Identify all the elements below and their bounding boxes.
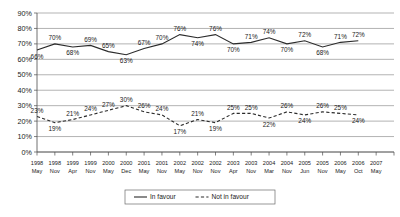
x-axis-year-label: 2006 (352, 160, 364, 166)
x-axis-year-label: 2002 (209, 160, 221, 166)
x-axis-month-label: Nov (86, 168, 96, 174)
x-axis-month-label: Dec (121, 168, 131, 174)
data-point-label: 21% (66, 110, 79, 117)
x-axis-month-label: May (175, 168, 186, 174)
chart-container: 0%10%20%30%40%50%60%70%80%90% 1998May199… (0, 0, 400, 217)
y-axis-label: 40% (18, 86, 33, 95)
x-axis-year-label: 2004 (281, 160, 293, 166)
data-point-label: 71% (334, 33, 347, 40)
x-axis-month-label: Apr (229, 168, 238, 174)
data-point-label: 74% (263, 28, 276, 35)
data-point-label: 66% (31, 53, 44, 60)
data-point-label: 19% (209, 125, 222, 132)
x-axis-month-label: Nov (193, 168, 203, 174)
data-point-label: 17% (173, 128, 186, 135)
x-axis-month-label: May (139, 168, 150, 174)
data-point-label: 69% (84, 36, 97, 43)
y-axis-label: 90% (18, 9, 33, 18)
x-axis-month-label: May (32, 168, 43, 174)
x-axis-tick-marks (37, 152, 394, 156)
x-axis-month-label: Mar (264, 168, 274, 174)
y-axis-label: 50% (18, 70, 33, 79)
y-axis-label: 0% (22, 148, 33, 157)
x-axis-month-label: Jun (300, 168, 309, 174)
y-axis-label: 10% (18, 132, 33, 141)
data-point-label: 26% (138, 102, 151, 109)
x-axis-year-label: 2007 (370, 160, 382, 166)
x-axis-year-label: 2000 (120, 160, 132, 166)
data-point-label: 70% (281, 46, 294, 53)
data-point-label: 25% (334, 104, 347, 111)
x-axis-month-label: May (335, 168, 346, 174)
data-point-label: 26% (316, 102, 329, 109)
data-point-label: 72% (352, 31, 365, 38)
data-point-label: 24% (298, 117, 311, 124)
x-axis-year-label: 2001 (138, 160, 150, 166)
x-axis-year-label: 2002 (174, 160, 186, 166)
data-point-label: 67% (138, 39, 151, 46)
x-axis-year-label: 1998 (31, 160, 43, 166)
x-axis-year-label: 2006 (334, 160, 346, 166)
x-axis-year-label: 1999 (84, 160, 96, 166)
x-axis-month-label: Apr (68, 168, 77, 174)
x-axis-year-label: 2005 (316, 160, 328, 166)
data-point-label: 70% (48, 34, 61, 41)
y-axis-label: 80% (18, 24, 33, 33)
x-axis-year-label: 1998 (49, 160, 61, 166)
x-axis-year-label: 2002 (191, 160, 203, 166)
y-axis-label: 70% (18, 39, 33, 48)
x-axis-year-label: 2001 (156, 160, 168, 166)
y-axis-label: 20% (18, 117, 33, 126)
data-point-label: 25% (245, 104, 258, 111)
legend-label: Not in favour (212, 193, 250, 200)
x-axis-month-label: Nov (211, 168, 221, 174)
legend-label: In favour (150, 193, 176, 200)
x-axis-month-label: May (103, 168, 114, 174)
data-point-label: 21% (191, 110, 204, 117)
data-point-label: 24% (84, 105, 97, 112)
chart-legend: In favourNot in favour (125, 190, 275, 204)
x-axis-month-label: Nov (318, 168, 328, 174)
x-axis-year-label: 1999 (66, 160, 78, 166)
x-axis-month-label: Oct (354, 168, 363, 174)
x-axis-month-label: Nov (282, 168, 292, 174)
data-point-label: 76% (209, 25, 222, 32)
data-point-label: 68% (316, 49, 329, 56)
x-axis-year-label: 2000 (102, 160, 114, 166)
x-axis-year-label: 2003 (227, 160, 239, 166)
data-point-label: 22% (263, 121, 276, 128)
data-point-label: 70% (156, 34, 169, 41)
x-axis-year-label: 2004 (263, 160, 275, 166)
data-point-label: 76% (173, 25, 186, 32)
x-axis-tick-labels: 1998May1998Nov1999Apr1999Nov2000May2000D… (31, 160, 383, 174)
x-axis-month-label: Nov (50, 168, 60, 174)
data-point-label: 72% (298, 31, 311, 38)
x-axis-year-label: 2003 (245, 160, 257, 166)
x-axis-year-label: 2005 (299, 160, 311, 166)
line-chart: 0%10%20%30%40%50%60%70%80%90% 1998May199… (0, 0, 400, 217)
data-point-label: 27% (102, 101, 115, 108)
data-point-label: 25% (227, 104, 240, 111)
data-labels-not-in-favour: 23%19%21%24%27%30%26%24%17%21%19%25%25%2… (31, 96, 365, 135)
data-point-label: 68% (66, 49, 79, 56)
x-axis-month-label: Nov (246, 168, 256, 174)
y-axis-tick-labels: 0%10%20%30%40%50%60%70%80%90% (18, 9, 33, 157)
x-axis-month-label: Nov (157, 168, 167, 174)
data-point-label: 65% (102, 42, 115, 49)
data-point-label: 30% (120, 96, 133, 103)
data-point-label: 70% (227, 46, 240, 53)
data-point-label: 24% (156, 105, 169, 112)
data-point-label: 19% (48, 125, 61, 132)
data-point-label: 23% (31, 107, 44, 114)
x-axis-month-label: May (371, 168, 382, 174)
data-point-label: 26% (281, 102, 294, 109)
data-point-label: 24% (352, 117, 365, 124)
data-point-label: 74% (191, 40, 204, 47)
data-point-label: 63% (120, 57, 133, 64)
data-point-label: 71% (245, 33, 258, 40)
